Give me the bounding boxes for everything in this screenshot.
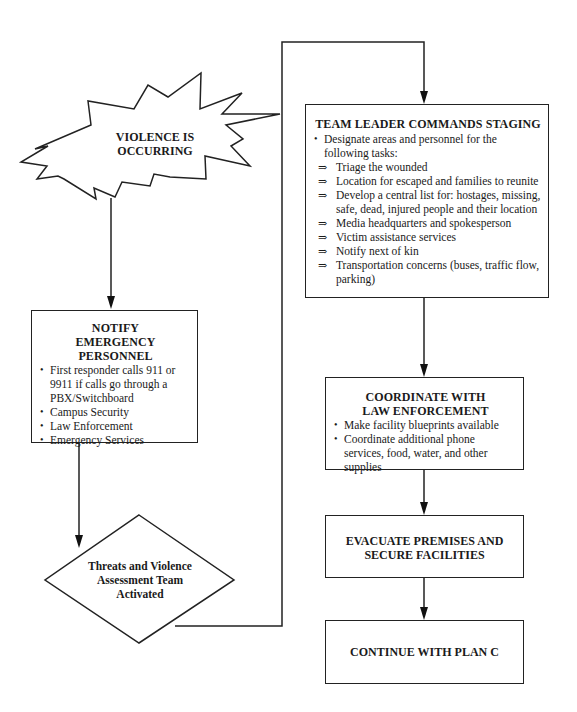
staging-intro: Designate areas and personnel for the fo… (314, 132, 542, 160)
staging-task: ⇒Victim assistance services (316, 230, 542, 244)
team-leader-staging-box: TEAM LEADER COMMANDS STAGING Designate a… (305, 104, 549, 298)
notify-item: First responder calls 911 or 9911 if cal… (40, 363, 191, 405)
notify-item: Campus Security (40, 405, 191, 419)
double-arrow-icon: ⇒ (318, 244, 327, 258)
coordinate-title-2: LAW ENFORCEMENT (334, 404, 517, 418)
start-line-2: OCCURRING (100, 144, 210, 158)
staging-title: TEAM LEADER COMMANDS STAGING (314, 117, 542, 131)
decision-line-3: Activated (70, 587, 210, 601)
notify-item: Emergency Services (40, 433, 191, 447)
notify-title-2: EMERGENCY PERSONNEL (40, 335, 191, 363)
notify-list: First responder calls 911 or 9911 if cal… (40, 363, 191, 447)
notify-item: Law Enforcement (40, 419, 191, 433)
staging-task: ⇒Notify next of kin (316, 244, 542, 258)
continue-label: CONTINUE WITH PLAN C (326, 645, 523, 659)
double-arrow-icon: ⇒ (318, 258, 327, 272)
evacuate-line-2: SECURE FACILITIES (326, 548, 523, 562)
staging-task: ⇒Media headquarters and spokesperson (316, 216, 542, 230)
staging-task: ⇒Location for escaped and families to re… (316, 174, 542, 188)
start-line-1: VIOLENCE IS (100, 130, 210, 144)
double-arrow-icon: ⇒ (318, 174, 327, 188)
staging-list: Designate areas and personnel for the fo… (314, 132, 542, 160)
coordinate-list: Make facility blueprints available Coord… (334, 418, 517, 474)
decision-line-1: Threats and Violence (70, 559, 210, 573)
coordinate-item: Make facility blueprints available (334, 418, 517, 432)
coordinate-title-1: COORDINATE WITH (334, 390, 517, 404)
evacuate-line-1: EVACUATE PREMISES AND (326, 534, 523, 548)
notify-title-1: NOTIFY (40, 321, 191, 335)
double-arrow-icon: ⇒ (318, 216, 327, 230)
decision-label: Threats and Violence Assessment Team Act… (70, 559, 210, 601)
decision-line-2: Assessment Team (70, 573, 210, 587)
coordinate-item: Coordinate additional phone services, fo… (334, 432, 517, 474)
staging-task-list: ⇒Triage the wounded ⇒Location for escape… (316, 160, 542, 286)
start-node-label: VIOLENCE IS OCCURRING (100, 130, 210, 158)
staging-task: ⇒Triage the wounded (316, 160, 542, 174)
staging-task: ⇒Transportation concerns (buses, traffic… (316, 258, 542, 286)
evacuate-premises-box: EVACUATE PREMISES AND SECURE FACILITIES (325, 515, 524, 578)
double-arrow-icon: ⇒ (318, 188, 327, 202)
coordinate-law-enforcement-box: COORDINATE WITH LAW ENFORCEMENT Make fac… (325, 377, 524, 470)
notify-emergency-box: NOTIFY EMERGENCY PERSONNEL First respond… (31, 310, 198, 443)
staging-task: ⇒Develop a central list for: hostages, m… (316, 188, 542, 216)
double-arrow-icon: ⇒ (318, 230, 327, 244)
continue-plan-c-box: CONTINUE WITH PLAN C (325, 620, 524, 684)
double-arrow-icon: ⇒ (318, 160, 327, 174)
